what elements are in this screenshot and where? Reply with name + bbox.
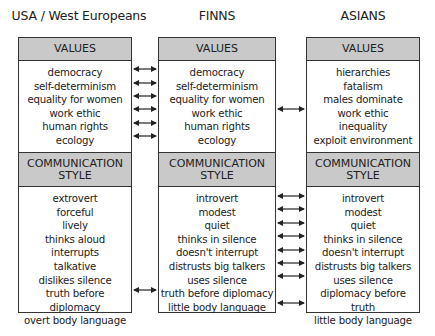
- list-item: dislikes silence: [19, 274, 131, 288]
- list-item: hierarchies: [307, 66, 419, 80]
- list-item: self-determinism: [159, 80, 275, 94]
- header-line: STYLE: [307, 170, 419, 182]
- list-item: work ethic: [19, 107, 131, 121]
- list-item: modest: [307, 206, 419, 220]
- list-item: inequality: [307, 120, 419, 134]
- list-item: truth before diplomacy: [19, 287, 131, 314]
- list-item: forceful: [19, 206, 131, 220]
- list-item: introvert: [159, 192, 275, 206]
- list-item: thinks aloud: [19, 233, 131, 247]
- list-item: ecology: [159, 134, 275, 148]
- list-item: uses silence: [307, 274, 419, 288]
- list-item: little body language: [307, 314, 419, 328]
- values-list: democracy self-determinism equality for …: [19, 61, 131, 152]
- list-item: distrusts big talkers: [307, 260, 419, 274]
- list-item: extrovert: [19, 192, 131, 206]
- list-item: talkative: [19, 260, 131, 274]
- list-item: equality for women: [19, 93, 131, 107]
- list-item: interrupts: [19, 246, 131, 260]
- list-item: doesn't interrupt: [307, 246, 419, 260]
- list-item: overt body language: [19, 314, 131, 328]
- column-title-finns: FINNS: [158, 8, 276, 23]
- asians-box: VALUES hierarchies fatalism males domina…: [306, 37, 420, 313]
- list-item: human rights: [19, 120, 131, 134]
- usa-box: VALUES democracy self-determinism equali…: [18, 37, 132, 313]
- header-line: STYLE: [19, 170, 131, 182]
- list-item: quiet: [307, 219, 419, 233]
- finns-box: VALUES democracy self-determinism equali…: [158, 37, 276, 313]
- list-item: thinks in silence: [307, 233, 419, 247]
- list-item: diplomacy before truth: [307, 287, 419, 314]
- list-item: males dominate: [307, 93, 419, 107]
- communication-list: introvert modest quiet thinks in silence…: [159, 187, 275, 314]
- list-item: distrusts big talkers: [159, 260, 275, 274]
- list-item: modest: [159, 206, 275, 220]
- values-header: VALUES: [307, 38, 419, 61]
- list-item: work ethic: [159, 107, 275, 121]
- list-item: self-determinism: [19, 80, 131, 94]
- list-item: democracy: [19, 66, 131, 80]
- values-header: VALUES: [19, 38, 131, 61]
- communication-list: introvert modest quiet thinks in silence…: [307, 187, 419, 328]
- list-item: thinks in silence: [159, 233, 275, 247]
- list-item: lively: [19, 219, 131, 233]
- values-list: hierarchies fatalism males dominate work…: [307, 61, 419, 152]
- list-item: little body language: [159, 301, 275, 315]
- header-line: STYLE: [159, 170, 275, 182]
- list-item: equality for women: [159, 93, 275, 107]
- list-item: uses silence: [159, 274, 275, 288]
- communication-list: extrovert forceful lively thinks aloud i…: [19, 187, 131, 328]
- list-item: human rights: [159, 120, 275, 134]
- list-item: truth before diplomacy: [159, 287, 275, 301]
- list-item: democracy: [159, 66, 275, 80]
- list-item: introvert: [307, 192, 419, 206]
- values-header: VALUES: [159, 38, 275, 61]
- list-item: exploit environment: [307, 134, 419, 148]
- list-item: quiet: [159, 219, 275, 233]
- column-title-usa: USA / West Europeans: [4, 8, 154, 23]
- list-item: ecology: [19, 134, 131, 148]
- column-title-asians: ASIANS: [306, 8, 420, 23]
- list-item: work ethic: [307, 107, 419, 121]
- list-item: doesn't interrupt: [159, 246, 275, 260]
- list-item: fatalism: [307, 80, 419, 94]
- communication-style-header: COMMUNICATION STYLE: [307, 152, 419, 187]
- communication-style-header: COMMUNICATION STYLE: [159, 152, 275, 187]
- communication-style-header: COMMUNICATION STYLE: [19, 152, 131, 187]
- values-list: democracy self-determinism equality for …: [159, 61, 275, 152]
